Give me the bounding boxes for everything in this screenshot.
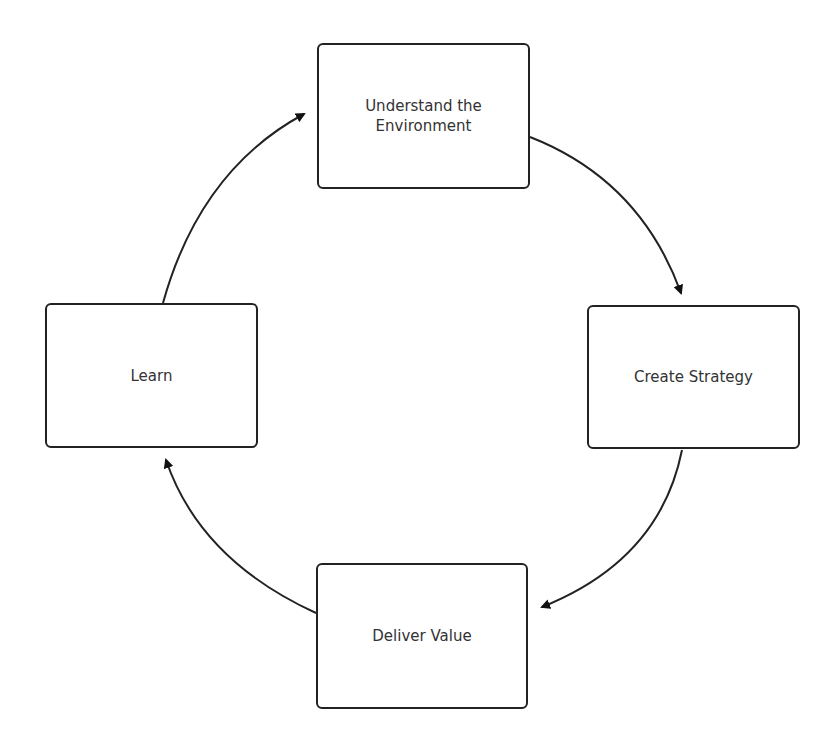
arrow-deliver-to-learn bbox=[166, 460, 316, 613]
arrow-strategy-to-deliver bbox=[542, 450, 682, 607]
arrow-learn-to-understand bbox=[163, 114, 304, 303]
node-label: Learn bbox=[131, 366, 173, 386]
node-create-strategy: Create Strategy bbox=[587, 305, 800, 449]
node-label-line2: Environment bbox=[365, 116, 482, 136]
node-label: Create Strategy bbox=[634, 367, 753, 387]
node-label: Deliver Value bbox=[372, 626, 471, 646]
node-understand-environment: Understand the Environment bbox=[317, 43, 530, 189]
node-learn: Learn bbox=[45, 303, 258, 448]
node-deliver-value: Deliver Value bbox=[316, 563, 528, 709]
node-label-line1: Understand the bbox=[365, 96, 482, 116]
arrow-understand-to-strategy bbox=[530, 137, 681, 293]
